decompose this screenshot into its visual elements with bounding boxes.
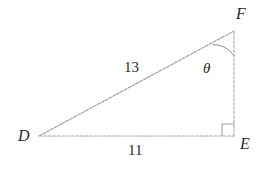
vertex-label-f: F [236,6,246,22]
geometry-figure: F E D 13 11 θ [0,0,271,176]
vertex-label-e: E [240,136,250,152]
vertex-label-d: D [18,128,30,144]
right-angle-marker-at-E [222,124,234,136]
angle-arc-at-F [213,45,235,56]
segment-DF [39,31,234,136]
side-length-label-de: 11 [128,143,142,158]
angle-label-theta: θ [203,61,210,76]
side-length-label-df: 13 [124,60,139,75]
